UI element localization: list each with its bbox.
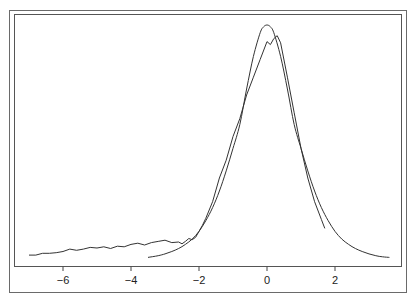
empirical-density-line [29,36,325,255]
x-tick-label: −4 [125,274,138,286]
outer-frame [10,11,407,293]
smooth-density-line [148,25,389,257]
plot-frame [15,15,402,267]
x-axis-ticks: −6−4−202 [57,267,338,287]
x-tick-label: −2 [193,274,206,286]
series-group [29,25,389,257]
x-tick-label: 0 [264,274,270,286]
density-chart: −6−4−202 [0,0,417,299]
x-tick-label: 2 [332,274,338,286]
x-tick-label: −6 [57,274,70,286]
